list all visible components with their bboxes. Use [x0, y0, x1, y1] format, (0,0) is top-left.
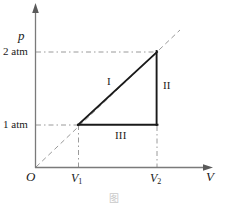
y-tick-1atm: 1 atm — [3, 119, 28, 130]
origin-label: O — [26, 170, 35, 183]
x-tick-v1: V1 — [71, 172, 82, 184]
x-axis-label: V — [206, 170, 214, 183]
cycle-triangle — [78, 51, 158, 125]
x-tick-v2: V2 — [150, 172, 161, 184]
x-tick-v2-subscript: 2 — [157, 177, 161, 186]
region-label-I: I — [107, 76, 111, 87]
region-label-III: III — [115, 130, 127, 141]
y-tick-2atm: 2 atm — [3, 46, 28, 57]
y-axis-arrow — [32, 3, 39, 13]
axes — [35, 9, 207, 168]
y-axis-label: p — [18, 29, 25, 42]
process-I-hypotenuse — [78, 52, 157, 125]
figure-caption: 图 — [0, 190, 228, 204]
region-label-II: II — [163, 80, 171, 91]
x-tick-v1-subscript: 1 — [78, 177, 82, 186]
